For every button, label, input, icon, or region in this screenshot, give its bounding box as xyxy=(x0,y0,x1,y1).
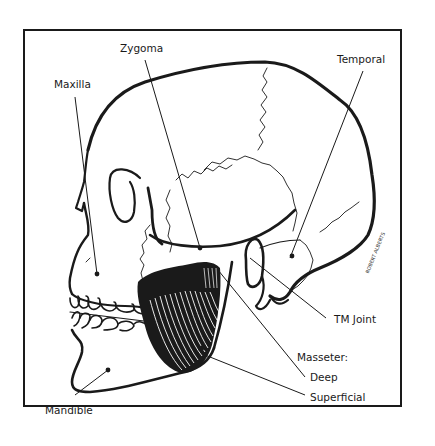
condyle xyxy=(246,239,264,287)
leader-temporal xyxy=(290,71,363,258)
label-mandible: Mandible xyxy=(45,405,93,416)
label-superficial: Superficial xyxy=(310,392,365,403)
label-temporal: Temporal xyxy=(337,54,385,65)
zygomatic-arch xyxy=(150,210,295,247)
label-deep: Deep xyxy=(310,372,338,383)
skull-illustration xyxy=(0,0,435,446)
label-masseter: Masseter: xyxy=(297,352,348,363)
leader-superficial xyxy=(205,355,305,395)
label-maxilla: Maxilla xyxy=(54,79,91,90)
orbit xyxy=(109,169,140,221)
label-tm-joint: TM Joint xyxy=(334,314,376,325)
label-zygoma: Zygoma xyxy=(120,43,163,54)
